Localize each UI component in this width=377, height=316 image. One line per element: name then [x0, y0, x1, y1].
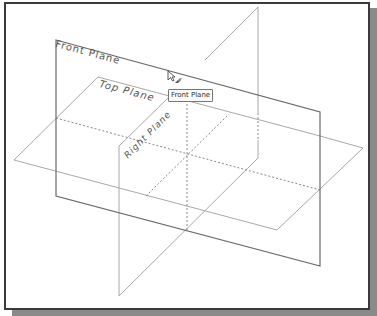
- graphics-viewport[interactable]: Front Plane Top Plane Right Plane Front …: [4, 2, 370, 310]
- frame-shadow-right: [369, 8, 377, 316]
- tooltip: Front Plane: [168, 89, 213, 102]
- right-plane[interactable]: [119, 7, 258, 296]
- cursor-plane-select-icon: [167, 70, 183, 86]
- frame-shadow-bottom: [12, 309, 377, 316]
- front-plane[interactable]: [56, 40, 320, 266]
- hidden-lines: [56, 96, 320, 232]
